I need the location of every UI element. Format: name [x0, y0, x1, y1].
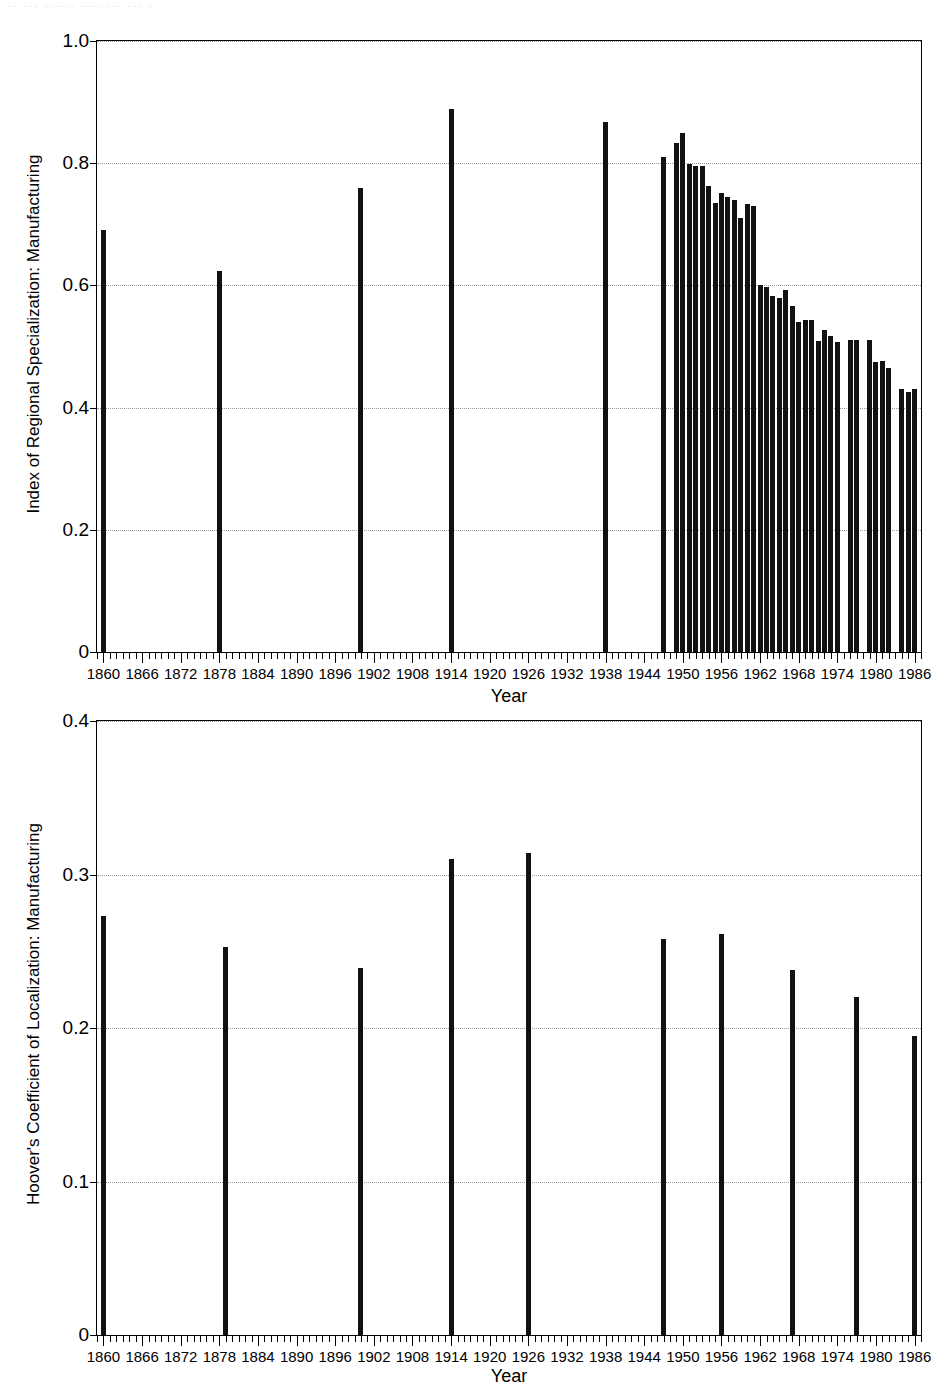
x-tick-major: [142, 1335, 143, 1346]
bar: [809, 320, 814, 652]
x-tick-minor: [496, 652, 497, 659]
x-tick-minor: [425, 1335, 426, 1342]
x-tick-major: [412, 652, 413, 663]
bar: [217, 271, 222, 652]
x-tick-label: 1860: [87, 665, 120, 682]
x-tick-label: 1956: [705, 665, 738, 682]
x-tick-minor: [284, 652, 285, 659]
x-tick-minor: [889, 1335, 890, 1342]
bar: [526, 853, 531, 1335]
x-tick-major: [799, 1335, 800, 1346]
x-tick-minor: [477, 1335, 478, 1342]
x-tick-minor: [554, 652, 555, 659]
x-tick-minor: [870, 652, 871, 659]
bar: [848, 340, 853, 652]
y-tick-label: 0.1: [63, 1171, 97, 1193]
x-tick-minor: [702, 652, 703, 659]
x-tick-minor: [393, 652, 394, 659]
x-tick-minor: [882, 1335, 883, 1342]
x-tick-minor: [329, 1335, 330, 1342]
x-tick-label: 1932: [550, 1348, 583, 1365]
x-tick-minor: [432, 1335, 433, 1342]
x-tick-minor: [651, 1335, 652, 1342]
x-tick-major: [528, 1335, 529, 1346]
x-tick-major: [103, 652, 104, 663]
x-tick-minor: [438, 652, 439, 659]
x-tick-minor: [515, 1335, 516, 1342]
x-tick-label: 1878: [203, 665, 236, 682]
x-tick-minor: [902, 652, 903, 659]
x-tick-label: 1968: [782, 1348, 815, 1365]
plot-area-bottom: 00.10.20.30.4186018661872187818841890189…: [96, 720, 922, 1336]
x-tick-minor: [889, 652, 890, 659]
x-tick-label: 1962: [743, 1348, 776, 1365]
bar: [680, 133, 685, 652]
x-tick-minor: [696, 1335, 697, 1342]
x-tick-minor: [387, 1335, 388, 1342]
x-tick-label: 1884: [241, 1348, 274, 1365]
x-tick-label: 1932: [550, 665, 583, 682]
x-tick-minor: [136, 652, 137, 659]
x-tick-minor: [709, 1335, 710, 1342]
x-tick-minor: [857, 652, 858, 659]
x-tick-minor: [812, 652, 813, 659]
bar: [693, 166, 698, 652]
gridline-y: [97, 41, 921, 42]
x-tick-minor: [194, 1335, 195, 1342]
bar: [796, 322, 801, 652]
x-tick-minor: [812, 1335, 813, 1342]
x-tick-minor: [844, 1335, 845, 1342]
x-tick-label: 1908: [396, 1348, 429, 1365]
x-tick-minor: [380, 652, 381, 659]
bar: [854, 997, 859, 1335]
bar: [101, 916, 106, 1335]
x-tick-label: 1938: [589, 1348, 622, 1365]
x-tick-minor: [689, 652, 690, 659]
x-tick-minor: [573, 1335, 574, 1342]
x-tick-minor: [406, 652, 407, 659]
x-tick-label: 1980: [859, 1348, 892, 1365]
x-tick-minor: [895, 652, 896, 659]
x-tick-minor: [97, 652, 98, 659]
x-tick-label: 1884: [241, 665, 274, 682]
x-tick-minor: [618, 652, 619, 659]
x-tick-minor: [355, 652, 356, 659]
x-tick-minor: [741, 1335, 742, 1342]
x-tick-minor: [515, 652, 516, 659]
x-tick-major: [567, 1335, 568, 1346]
x-tick-minor: [464, 652, 465, 659]
x-tick-minor: [123, 652, 124, 659]
x-tick-minor: [232, 1335, 233, 1342]
x-tick-label: 1878: [203, 1348, 236, 1365]
bar: [770, 296, 775, 652]
bar: [880, 361, 885, 652]
x-tick-minor: [657, 1335, 658, 1342]
bar: [700, 166, 705, 652]
x-tick-minor: [303, 1335, 304, 1342]
bar: [738, 218, 743, 652]
x-tick-minor: [470, 652, 471, 659]
x-tick-minor: [580, 652, 581, 659]
x-tick-major: [799, 652, 800, 663]
x-tick-minor: [271, 1335, 272, 1342]
x-tick-minor: [252, 1335, 253, 1342]
x-tick-major: [335, 652, 336, 663]
x-tick-minor: [779, 652, 780, 659]
x-tick-minor: [393, 1335, 394, 1342]
x-tick-minor: [348, 1335, 349, 1342]
x-tick-minor: [309, 1335, 310, 1342]
y-tick-label: 0.2: [63, 519, 97, 541]
x-tick-minor: [400, 1335, 401, 1342]
x-tick-label: 1986: [898, 665, 931, 682]
x-tick-minor: [387, 652, 388, 659]
x-tick-label: 1890: [280, 1348, 313, 1365]
x-tick-minor: [548, 652, 549, 659]
bar: [223, 947, 228, 1335]
x-tick-minor: [689, 1335, 690, 1342]
x-tick-minor: [921, 1335, 922, 1342]
bar: [764, 287, 769, 652]
x-tick-minor: [470, 1335, 471, 1342]
x-tick-minor: [277, 652, 278, 659]
x-tick-minor: [245, 1335, 246, 1342]
bar: [899, 389, 904, 652]
